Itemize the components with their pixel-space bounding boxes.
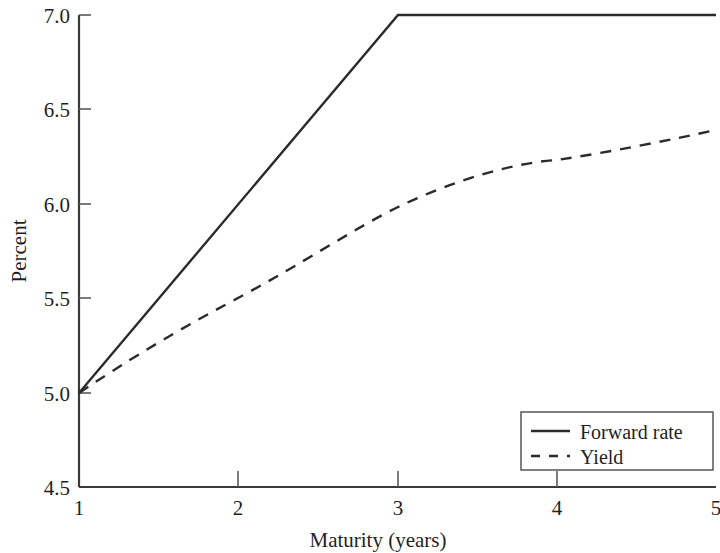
y-tick-label-7.0: 7.0 [44,4,70,28]
y-tick-label-5.5: 5.5 [44,287,70,311]
chart-figure: 7.0 6.5 6.0 5.5 5.0 4.5 1 2 3 4 5 Maturi… [0,0,720,553]
y-tick-label-6.5: 6.5 [44,98,70,122]
y-tick-label-6.0: 6.0 [44,193,70,217]
x-tick-label-1: 1 [74,496,85,520]
legend-label-yield: Yield [580,446,623,468]
chart-legend: Forward rate Yield [521,412,713,470]
x-tick-label-2: 2 [233,496,244,520]
y-tick-label-4.5: 4.5 [44,476,70,500]
legend-label-forward-rate: Forward rate [580,421,683,443]
x-axis-title: Maturity (years) [309,528,446,552]
x-tick-label-4: 4 [552,496,563,520]
line-chart-canvas: 7.0 6.5 6.0 5.5 5.0 4.5 1 2 3 4 5 Maturi… [0,0,720,553]
y-tick-label-5.0: 5.0 [44,382,70,406]
x-tick-label-5: 5 [711,496,720,520]
x-tick-label-3: 3 [393,496,404,520]
y-axis-title: Percent [7,219,31,282]
